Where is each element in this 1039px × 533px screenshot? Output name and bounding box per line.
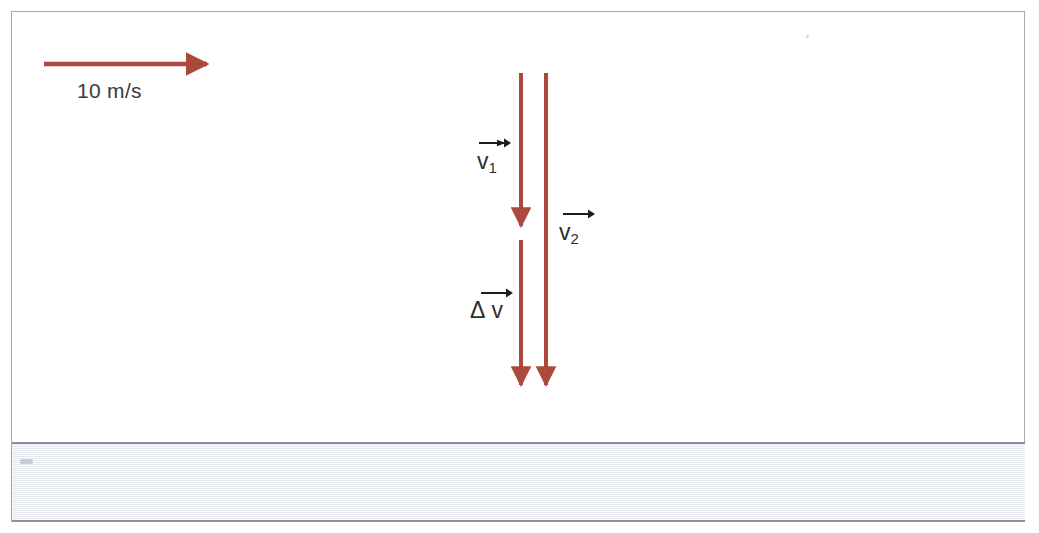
- v2-label: v2: [559, 221, 579, 246]
- delta-v-symbol: v: [491, 297, 503, 323]
- paper-speck: [806, 35, 809, 38]
- delta-v-label: Δv: [470, 299, 503, 322]
- ground-band: [12, 442, 1025, 522]
- v1-subscript: 1: [489, 159, 497, 176]
- physics-vector-diagram: 10 m/s v1 v2 Δv: [0, 0, 1039, 533]
- speed-label: 10 m/s: [77, 80, 142, 101]
- v1-label: v1: [477, 150, 497, 175]
- v2-subscript: 2: [571, 230, 579, 247]
- delta-symbol: Δ: [470, 297, 485, 323]
- v1-symbol: v: [477, 148, 489, 174]
- v2-symbol: v: [559, 219, 571, 245]
- scan-smudge-mark: [20, 459, 33, 464]
